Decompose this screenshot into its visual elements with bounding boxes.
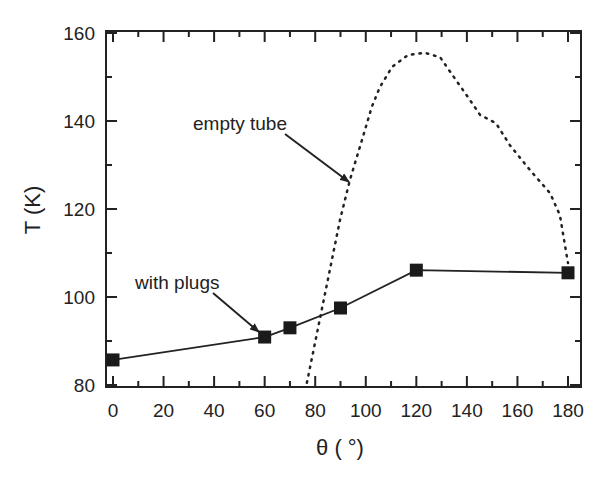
data-point-marker — [107, 353, 120, 366]
y-tick-label: 80 — [74, 375, 95, 396]
arrow-empty-tube — [285, 134, 349, 182]
plot-frame — [106, 31, 581, 387]
chart: 020406080100120140160180 80100120140160 … — [0, 0, 607, 483]
x-tick-label: 140 — [451, 400, 483, 421]
x-tick-label: 120 — [400, 400, 432, 421]
y-axis-label: T (K) — [20, 186, 45, 234]
arrow-with-plugs — [213, 293, 259, 332]
x-axis-ticks: 020406080100120140160180 — [108, 31, 584, 421]
y-tick-label: 100 — [63, 287, 95, 308]
y-axis-ticks: 80100120140160 — [63, 23, 581, 396]
annotations: empty tube with plugs — [134, 113, 349, 332]
x-tick-label: 0 — [108, 400, 119, 421]
x-tick-label: 160 — [502, 400, 534, 421]
data-point-marker — [334, 302, 347, 315]
x-axis-label: θ ( °) — [316, 435, 364, 460]
x-tick-label: 60 — [254, 400, 275, 421]
y-tick-label: 140 — [63, 111, 95, 132]
annotation-with-plugs: with plugs — [134, 272, 220, 293]
x-tick-label: 80 — [305, 400, 326, 421]
y-tick-label: 120 — [63, 199, 95, 220]
y-tick-label: 160 — [63, 23, 95, 44]
x-tick-label: 20 — [153, 400, 174, 421]
annotation-empty-tube: empty tube — [193, 113, 287, 134]
x-tick-label: 40 — [204, 400, 225, 421]
data-point-marker — [410, 264, 423, 277]
data-point-marker — [283, 321, 296, 334]
series-empty-tube — [307, 53, 568, 383]
data-point-marker — [562, 266, 575, 279]
x-tick-label: 180 — [552, 400, 584, 421]
data-point-marker — [258, 331, 271, 344]
empty-tube-curve — [307, 53, 568, 383]
x-tick-label: 100 — [350, 400, 382, 421]
